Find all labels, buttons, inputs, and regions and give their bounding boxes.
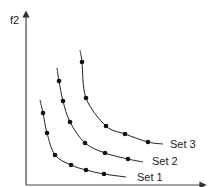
data-point: [53, 153, 58, 158]
data-point: [84, 168, 89, 173]
series-layer: Set 1Set 2Set 3: [40, 50, 196, 183]
series-curve: [40, 100, 126, 177]
series-label: Set 1: [137, 171, 163, 183]
data-point: [126, 157, 131, 162]
series-label: Set 2: [152, 155, 178, 167]
data-point: [146, 140, 151, 145]
series-2: Set 2: [57, 68, 178, 167]
chart: f2 Set 1Set 2Set 3: [0, 0, 215, 187]
data-point: [102, 172, 107, 177]
series-curve: [80, 50, 163, 144]
data-point: [69, 163, 74, 168]
y-axis-label: f2: [10, 14, 19, 26]
data-point: [123, 132, 128, 137]
data-point: [103, 151, 108, 156]
data-point: [84, 96, 89, 101]
data-point: [41, 111, 46, 116]
series-label: Set 3: [170, 138, 196, 150]
data-point: [104, 124, 109, 129]
series-1: Set 1: [40, 100, 163, 183]
data-point: [83, 141, 88, 146]
data-point: [57, 79, 62, 84]
series-curve: [57, 68, 143, 162]
data-point: [80, 60, 85, 65]
data-point: [61, 99, 66, 104]
data-point: [68, 120, 73, 125]
data-point: [45, 131, 50, 136]
series-3: Set 3: [80, 50, 196, 150]
